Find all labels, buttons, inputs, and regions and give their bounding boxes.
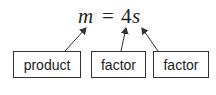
arrow-factor-to-4 <box>121 28 126 51</box>
label-box-factor-1: factor <box>91 51 146 78</box>
arrow-product-to-m <box>65 28 86 51</box>
label-text-product: product <box>24 57 71 73</box>
label-text-factor-1: factor <box>101 57 136 73</box>
label-text-factor-2: factor <box>163 57 198 73</box>
label-box-product: product <box>13 51 81 78</box>
arrow-factor-to-s <box>142 28 158 51</box>
arrows-layer <box>0 0 216 95</box>
label-box-factor-2: factor <box>153 51 209 78</box>
